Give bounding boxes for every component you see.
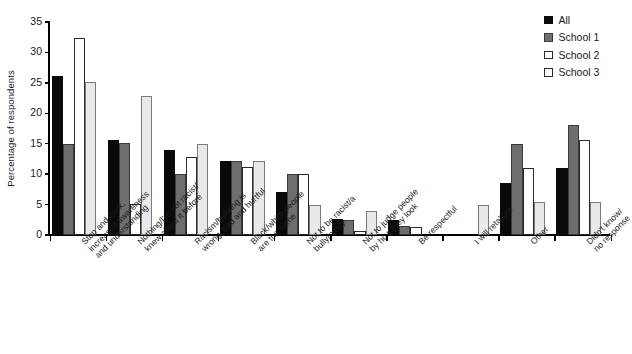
y-tick-label: 10 [30, 167, 42, 180]
bar-s1 [399, 226, 410, 235]
y-tick-label: 30 [30, 45, 42, 58]
bar-s1 [568, 125, 579, 235]
x-axis-separator [274, 235, 276, 241]
x-axis-separator [498, 235, 500, 241]
legend-label: School 2 [559, 49, 600, 61]
legend-item-school-2[interactable]: School 2 [544, 46, 599, 64]
y-axis-ticks: 05101520253035 [0, 0, 50, 354]
legend-label: School 1 [559, 31, 600, 43]
y-tick-label: 0 [36, 228, 42, 241]
x-axis-separator [50, 235, 52, 241]
legend-swatch-icon [544, 68, 553, 77]
x-axis-separator [611, 235, 613, 241]
y-tick-label: 20 [30, 106, 42, 119]
legend-item-school-1[interactable]: School 1 [544, 29, 599, 47]
x-axis-separator [442, 235, 444, 241]
legend-swatch-icon [544, 16, 553, 25]
y-tick-label: 25 [30, 76, 42, 89]
legend-item-school-3[interactable]: School 3 [544, 64, 599, 82]
x-axis-separator [554, 235, 556, 241]
y-tick-label: 15 [30, 137, 42, 150]
bar-all [556, 168, 567, 235]
bar-group [50, 22, 106, 235]
bar-s3 [85, 82, 96, 235]
legend-item-all[interactable]: All [544, 11, 599, 29]
bar-all [52, 76, 63, 235]
x-axis-separator [386, 235, 388, 241]
bar-s2 [74, 38, 85, 235]
bar-s2 [579, 140, 590, 235]
legend-swatch-icon [544, 51, 553, 60]
x-axis-separator [106, 235, 108, 241]
bar-s1 [511, 144, 522, 235]
y-tick-label: 35 [30, 15, 42, 28]
x-axis-separator [218, 235, 220, 241]
chart-legend: AllSchool 1School 2School 3 [544, 11, 599, 81]
legend-label: All [559, 14, 571, 26]
y-tick-label: 5 [36, 198, 42, 211]
bar-s1 [63, 144, 74, 235]
legend-swatch-icon [544, 33, 553, 42]
legend-label: School 3 [559, 66, 600, 78]
x-axis-separator [330, 235, 332, 241]
x-axis-separator [162, 235, 164, 241]
bar-s2 [523, 168, 534, 235]
